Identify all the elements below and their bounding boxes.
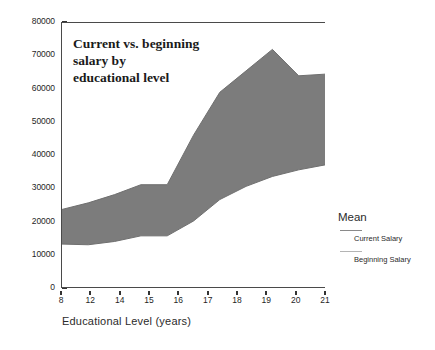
x-tick-label: 14 (107, 295, 133, 305)
legend-label-beginning-salary: Beginning Salary (354, 255, 433, 264)
y-tick-label: 70000 (9, 50, 55, 59)
y-tick-label: 40000 (9, 150, 55, 159)
x-tick-mark (177, 291, 179, 295)
x-tick-label: 19 (253, 295, 279, 305)
y-tick-label: 60000 (9, 84, 55, 93)
y-tick-label: 0 (9, 283, 55, 292)
legend-label-current-salary: Current Salary (354, 234, 433, 243)
legend-title: Mean (338, 210, 433, 224)
plot-area: Current vs. beginning salary by educatio… (61, 22, 325, 288)
x-tick-mark (295, 291, 297, 295)
x-tick-label: 12 (77, 295, 103, 305)
y-tick-label: 50000 (9, 117, 55, 126)
x-tick-mark (119, 291, 121, 295)
x-tick-label: 17 (195, 295, 221, 305)
x-tick-mark (324, 291, 326, 295)
legend-item-beginning-salary: Beginning Salary (338, 251, 433, 264)
x-tick-mark (148, 291, 150, 295)
x-tick-mark (236, 291, 238, 295)
legend: Mean Current Salary Beginning Salary (338, 210, 433, 272)
legend-item-current-salary: Current Salary (338, 230, 433, 243)
chart-title-line-1: Current vs. beginning (73, 35, 263, 52)
chart-title-line-3: educational level (73, 69, 263, 86)
chart-title-line-2: salary by (73, 52, 263, 69)
x-tick-label: 20 (283, 295, 309, 305)
x-tick-label: 16 (165, 295, 191, 305)
x-axis-title: Educational Level (years) (62, 315, 191, 327)
y-tick-label: 80000 (9, 17, 55, 26)
x-tick-mark (207, 291, 209, 295)
legend-swatch-beginning-salary (340, 251, 362, 252)
x-tick-mark (89, 291, 91, 295)
x-tick-label: 21 (312, 295, 338, 305)
x-tick-label: 18 (224, 295, 250, 305)
y-tick-label: 20000 (9, 217, 55, 226)
x-tick-label: 15 (136, 295, 162, 305)
x-axis: 8121415161718192021 (61, 291, 325, 307)
x-tick-label: 8 (48, 295, 74, 305)
salary-area-chart: 0100002000030000400005000060000700008000… (0, 0, 435, 350)
legend-swatch-current-salary (340, 230, 362, 231)
x-tick-mark (60, 291, 62, 295)
x-tick-mark (265, 291, 267, 295)
y-tick-label: 30000 (9, 183, 55, 192)
y-tick-label: 10000 (9, 250, 55, 259)
chart-title: Current vs. beginning salary by educatio… (73, 35, 263, 86)
